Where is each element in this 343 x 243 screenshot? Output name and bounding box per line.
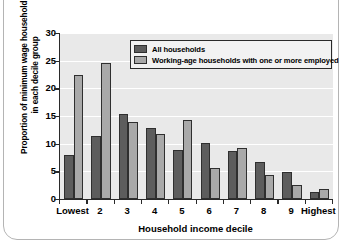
x-tick-mark — [196, 199, 197, 204]
bar — [310, 192, 320, 199]
y-tick-label: 25 — [32, 56, 56, 66]
x-tick-mark — [277, 199, 278, 204]
bar — [156, 134, 166, 199]
bar — [183, 120, 193, 199]
bar — [201, 143, 211, 199]
chart-legend: All households Working-age households wi… — [130, 40, 332, 69]
bar — [146, 128, 156, 199]
y-axis-title-line-2: in each decile group — [31, 36, 40, 113]
bar — [255, 162, 265, 199]
bar — [101, 63, 111, 199]
bar-chart-figure: Proportion of minimum wage households in… — [0, 0, 343, 243]
bar — [292, 185, 302, 199]
bar — [64, 155, 74, 199]
x-tick-mark — [332, 199, 333, 204]
bar — [210, 168, 220, 199]
legend-label-all-households: All households — [152, 45, 205, 54]
x-tick-mark — [223, 199, 224, 204]
y-axis-title-line-1: Proportion of minimum wage households — [20, 0, 29, 154]
x-axis-title: Household income decile — [59, 223, 332, 234]
bar — [282, 172, 292, 199]
bar — [74, 75, 84, 199]
bar — [119, 114, 129, 199]
bar — [237, 148, 247, 199]
legend-swatch-icon-all-households — [134, 45, 147, 53]
y-tick-label: 0 — [32, 194, 56, 204]
y-tick-label: 20 — [32, 83, 56, 93]
legend-label-working-age-households: Working-age households with one or more … — [152, 56, 339, 65]
x-tick-mark — [250, 199, 251, 204]
legend-item-working-age-households: Working-age households with one or more … — [134, 55, 328, 66]
x-tick-label: Highest — [293, 206, 343, 216]
y-tick-label: 10 — [32, 139, 56, 149]
bar — [91, 136, 101, 199]
bar — [265, 175, 275, 199]
bar — [319, 189, 329, 200]
x-tick-mark — [141, 199, 142, 204]
bar — [128, 122, 138, 199]
x-tick-mark — [168, 199, 169, 204]
x-tick-mark — [305, 199, 306, 204]
y-tick-label: 30 — [32, 28, 56, 38]
x-tick-mark — [86, 199, 87, 204]
x-tick-mark — [114, 199, 115, 204]
legend-swatch-icon-working-age-households — [134, 56, 147, 64]
y-tick-label: 5 — [32, 166, 56, 176]
x-tick-mark — [59, 199, 60, 204]
bar — [173, 150, 183, 199]
bar — [228, 151, 238, 199]
legend-item-all-households: All households — [134, 44, 328, 55]
y-tick-label: 15 — [32, 111, 56, 121]
